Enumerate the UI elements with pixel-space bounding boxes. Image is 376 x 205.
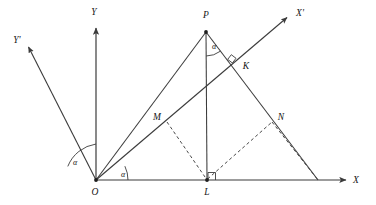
segment-PL bbox=[206, 32, 207, 180]
point-dot-O bbox=[94, 178, 98, 182]
geometry-canvas: X Y X' Y' O P K M N L α α α bbox=[0, 0, 376, 205]
dashed-segment-LN bbox=[208, 122, 272, 179]
point-label-L: L bbox=[203, 187, 209, 197]
axis-label-y: Y bbox=[91, 7, 98, 17]
point-dot-L bbox=[205, 178, 209, 182]
axis-label-x-prime: X' bbox=[295, 8, 305, 18]
axis-labels-group: X Y X' Y' bbox=[13, 7, 360, 185]
point-label-M: M bbox=[152, 112, 162, 122]
angle-arc-origin-right bbox=[125, 166, 128, 180]
point-labels-group: O P K M N L bbox=[92, 10, 285, 197]
dashed-segment-ML bbox=[167, 122, 206, 179]
segment-OP bbox=[96, 32, 206, 180]
axis-label-y-prime: Y' bbox=[13, 35, 21, 45]
point-dot-P bbox=[204, 30, 208, 34]
dashed-segments-group bbox=[167, 122, 318, 180]
axis-label-x: X bbox=[352, 175, 360, 185]
geometry-figure: X Y X' Y' O P K M N L α α α bbox=[0, 0, 376, 205]
y-prime-axis-line bbox=[29, 47, 97, 180]
angle-arc-at-P bbox=[206, 51, 220, 56]
point-label-N: N bbox=[277, 112, 285, 122]
point-label-K: K bbox=[242, 61, 250, 71]
angle-label-origin-left: α bbox=[73, 158, 78, 167]
solid-segments-group bbox=[96, 32, 318, 180]
angle-label-origin-right: α bbox=[121, 170, 126, 179]
point-label-P: P bbox=[202, 10, 209, 20]
point-label-O: O bbox=[92, 187, 99, 197]
segment-P-to-foot bbox=[206, 32, 318, 180]
x-prime-axis-line bbox=[96, 18, 287, 181]
angle-labels-group: α α α bbox=[73, 42, 217, 179]
angle-label-at-P: α bbox=[212, 42, 217, 51]
